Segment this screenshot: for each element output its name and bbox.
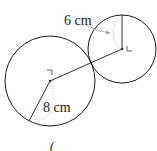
small-center-marker-icon [127, 46, 132, 51]
large-center-point [49, 80, 52, 83]
large-center-marker-icon [47, 70, 52, 75]
caption-mark: ( [50, 138, 55, 151]
small-center-point [121, 48, 124, 51]
small-radius-label: 6 cm [64, 13, 92, 28]
small-radius-dimension-brace [114, 18, 120, 47]
tangent-circles-diagram: 6 cm 8 cm ( [0, 0, 157, 151]
arrowhead-icon [106, 31, 110, 35]
large-radius-label: 8 cm [43, 100, 71, 115]
